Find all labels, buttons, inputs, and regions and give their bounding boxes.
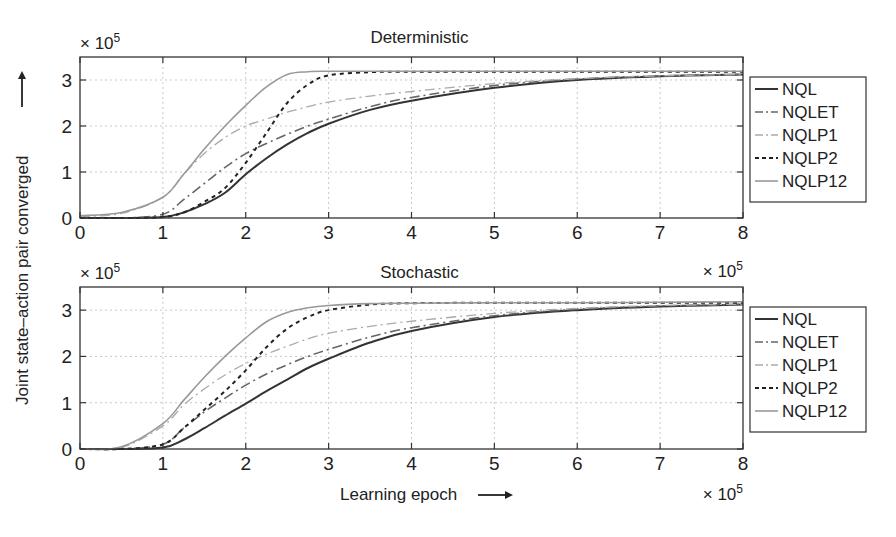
x-axis-label: Learning epoch — [340, 485, 457, 504]
legend-label-nqlp12: NQLP12 — [782, 402, 847, 421]
x-tick-label: 5 — [489, 222, 500, 243]
legend-label-nqlp1: NQLP1 — [782, 356, 838, 375]
x-tick-label: 3 — [323, 222, 334, 243]
legend-label-nqlp12: NQLP12 — [782, 172, 847, 191]
y-multiplier: × 105 — [80, 261, 121, 283]
x-tick-label: 2 — [240, 222, 251, 243]
x-tick-label: 5 — [489, 453, 500, 474]
y-tick-label: 1 — [61, 393, 72, 414]
y-tick-label: 3 — [61, 70, 72, 91]
x-multiplier-bottom: × 105 — [703, 482, 744, 504]
figure-canvas: 0123456780123Deterministic× 105NQLNQLETN… — [0, 0, 896, 537]
legend-label-nqlp2: NQLP2 — [782, 379, 838, 398]
series-line-nqlet — [80, 74, 743, 218]
y-tick-label: 0 — [61, 208, 72, 229]
x-tick-label: 6 — [572, 453, 583, 474]
y-axis-arrowhead-icon — [18, 71, 26, 79]
x-tick-label: 0 — [75, 453, 86, 474]
x-tick-label: 8 — [738, 222, 749, 243]
y-tick-label: 0 — [61, 439, 72, 460]
x-axis-arrowhead-icon — [505, 491, 513, 499]
y-tick-label: 3 — [61, 300, 72, 321]
x-tick-label: 3 — [323, 453, 334, 474]
x-tick-label: 2 — [240, 453, 251, 474]
x-tick-label: 4 — [406, 453, 417, 474]
legend: NQLNQLETNQLP1NQLP2NQLP12 — [750, 77, 866, 202]
x-tick-label: 6 — [572, 222, 583, 243]
x-tick-label: 0 — [75, 222, 86, 243]
legend: NQLNQLETNQLP1NQLP2NQLP12 — [750, 307, 866, 432]
series-line-nqlp1 — [80, 74, 743, 216]
legend-label-nql: NQL — [782, 80, 817, 99]
x-tick-label: 1 — [158, 453, 169, 474]
x-multiplier-top: × 105 — [703, 259, 744, 281]
x-tick-label: 1 — [158, 222, 169, 243]
legend-label-nqlp1: NQLP1 — [782, 126, 838, 145]
x-tick-label: 7 — [655, 453, 666, 474]
x-tick-label: 7 — [655, 222, 666, 243]
y-tick-label: 2 — [61, 346, 72, 367]
legend-label-nqlet: NQLET — [782, 333, 839, 352]
x-tick-label: 8 — [738, 453, 749, 474]
y-tick-label: 2 — [61, 116, 72, 137]
y-tick-label: 1 — [61, 162, 72, 183]
legend-label-nql: NQL — [782, 310, 817, 329]
plot-panel-stochastic: 0123456780123Stochastic× 105× 105NQLNQLE… — [61, 259, 866, 474]
plot-panel-deterministic: 0123456780123Deterministic× 105NQLNQLETN… — [61, 28, 866, 243]
panel-title: Deterministic — [370, 28, 469, 47]
x-tick-label: 4 — [406, 222, 417, 243]
legend-label-nqlet: NQLET — [782, 103, 839, 122]
series-line-nql — [80, 74, 743, 218]
y-axis-label-group: Joint state–action pair converged — [13, 71, 32, 405]
y-axis-label: Joint state–action pair converged — [13, 156, 32, 406]
panel-title: Stochastic — [380, 263, 459, 282]
legend-label-nqlp2: NQLP2 — [782, 149, 838, 168]
y-multiplier: × 105 — [80, 31, 121, 53]
